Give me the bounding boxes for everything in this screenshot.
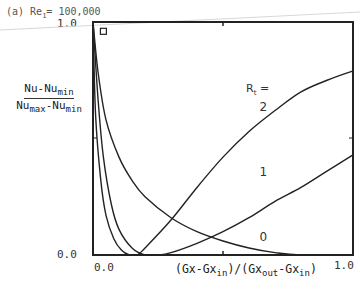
curve-label-rt-1: 1 (259, 165, 267, 179)
series-line-rt-0 (93, 22, 353, 255)
curve-label-rt-2: 2 (259, 100, 267, 114)
series-line-rt-1 (93, 22, 353, 255)
series-line-rt-2 (93, 22, 353, 255)
curve-label-rt-0: 0 (259, 230, 267, 244)
plot-frame (93, 22, 353, 255)
square-marker (100, 28, 106, 34)
plot-area: 210 (0, 0, 360, 293)
